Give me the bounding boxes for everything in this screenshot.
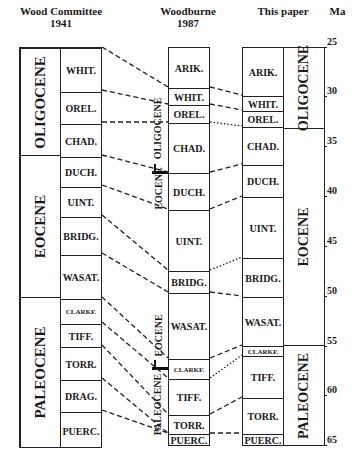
correlation-line [102, 410, 168, 433]
correlation-line [102, 322, 168, 378]
correlation-line [102, 185, 168, 209]
correlation-line [210, 292, 242, 296]
correlation-line [210, 355, 242, 378]
correlation-diagram: Wood Committee 1941 Woodburne 1987 This … [0, 0, 354, 460]
correlation-line [102, 345, 168, 414]
correlation-line [210, 164, 242, 172]
correlation-line [102, 155, 168, 172]
correlation-line [102, 47, 168, 87]
correlation-line [102, 215, 168, 270]
correlation-line [210, 87, 242, 95]
correlation-line [102, 90, 168, 104]
correlation-line [210, 397, 242, 414]
correlation-line [210, 122, 242, 126]
correlation-line [210, 345, 242, 358]
correlation-line [210, 196, 242, 209]
correlation-lines [0, 0, 354, 460]
correlation-line [102, 297, 168, 358]
correlation-line [102, 253, 168, 292]
correlation-line [210, 104, 242, 110]
correlation-line [210, 257, 242, 270]
correlation-line [102, 378, 168, 433]
